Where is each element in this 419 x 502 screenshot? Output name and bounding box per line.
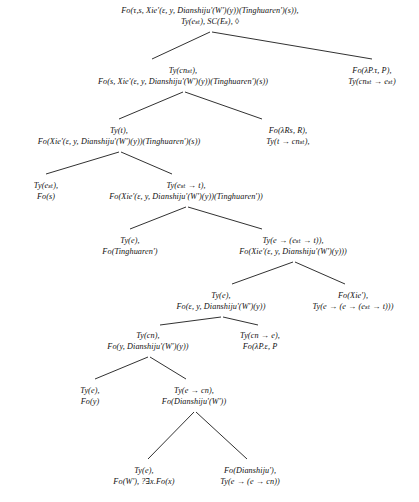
level3-left-node: Ty(eₛₜ),Fo(s) (34, 181, 58, 202)
node-text-line: Ty(eₛₜ), SC(Eₛ), ◊ (121, 17, 299, 28)
node-text-line: Fo(Xie'(ε, y, Dianshiju'(W')(y))(Tinghua… (38, 137, 201, 148)
level2-left-node: Ty(t),Fo(Xie'(ε, y, Dianshiju'(W')(y))(T… (38, 126, 201, 147)
node-text-line: Ty(e → (e → (eₛₜ → t))) (312, 302, 393, 313)
node-text-line: Fo(W'), ?∃x.Fo(x) (113, 477, 174, 488)
edge-l3-to-right (188, 207, 262, 229)
node-text-line: Ty(e), (113, 466, 174, 477)
node-text-line: Fo(Tinghuaren') (102, 247, 157, 258)
node-text-line: Fo(y) (80, 397, 99, 408)
level1-left-node: Ty(cnₛₜ),Fo(s, Xie'(ε, y, Dianshiju'(W')… (98, 66, 268, 87)
level7-right-node: Ty(e → cn),Fo(Dianshiju'(W')) (162, 386, 226, 407)
node-text-line: Ty(e → (eₛₜ → t)), (239, 236, 347, 247)
node-text-line: Ty(e), (80, 386, 99, 397)
node-text-line: Ty(t), (38, 126, 201, 137)
edge-l7-to-right (196, 412, 247, 459)
root-node: Fo(τ,s, Xie'(ε, y, Dianshiju'(W')(y))(Ti… (121, 6, 299, 27)
node-text-line: Ty(cn → e), (240, 331, 280, 342)
level6-left-node: Ty(cn),Fo(y, Dianshiju'(W')(y)) (107, 331, 188, 352)
edge-l5-to-right (223, 317, 258, 325)
node-text-line: Fo(s) (34, 192, 58, 203)
edge-l1-to-left (119, 92, 183, 119)
node-text-line: Fo(λRs, R), (266, 126, 309, 137)
node-text-line: Fo(τ,s, Xie'(ε, y, Dianshiju'(W')(y))(Ti… (121, 6, 299, 17)
level7-left-node: Ty(e),Fo(y) (80, 386, 99, 407)
edge-l5-to-left (160, 317, 221, 325)
node-text-line: Fo(Xie'), (312, 291, 393, 302)
level6-right-node: Ty(cn → e),Fo(λP.ε, P (240, 331, 280, 352)
level4-right-node: Ty(e → (eₛₜ → t)),Fo(Xie'(ε, y, Dianshij… (239, 236, 347, 257)
node-text-line: Ty(e → cn), (162, 386, 226, 397)
node-text-line: Ty(eₛₜ → t), (109, 181, 263, 192)
node-text-line: Ty(cnₛₜ → eₛₜ) (348, 77, 396, 88)
edge-l6-to-right (150, 357, 186, 379)
edge-l2-to-left (46, 152, 119, 174)
level5-left-node: Ty(e),Fo(ε, y, Dianshiju'(W')(y)) (176, 291, 265, 312)
edge-l7-to-left (148, 412, 194, 459)
node-text-line: Fo(Dianshiju'(W')) (162, 397, 226, 408)
node-text-line: Fo(y, Dianshiju'(W')(y)) (107, 342, 188, 353)
level8-right-node: Fo(Dianshiju'),Ty(e → (e → cn)) (220, 466, 280, 487)
node-text-line: Ty(cnₛₜ), (98, 66, 268, 77)
level5-right-node: Fo(Xie'),Ty(e → (e → (eₛₜ → t))) (312, 291, 393, 312)
edge-l4-to-right (295, 262, 345, 284)
node-text-line: Ty(e), (176, 291, 265, 302)
node-text-line: Fo(λP.ε, P (240, 342, 280, 353)
level3-right-node: Ty(eₛₜ → t),Fo(Xie'(ε, y, Dianshiju'(W')… (109, 181, 263, 202)
node-text-line: Ty(t → cnₛₜ), (266, 137, 309, 148)
edge-l2-to-right (121, 152, 172, 174)
edge-root-to-right (212, 32, 372, 59)
node-text-line: Ty(e), (102, 236, 157, 247)
edge-l3-to-left (130, 207, 186, 229)
node-text-line: Fo(Xie'(ε, y, Dianshiju'(W')(y))(Tinghua… (109, 192, 263, 203)
node-text-line: Fo(λP.τ, P), (348, 66, 396, 77)
edge-l1-to-right (185, 92, 262, 119)
node-text-line: Ty(e → (e → cn)) (220, 477, 280, 488)
level2-right-node: Fo(λRs, R),Ty(t → cnₛₜ), (266, 126, 309, 147)
node-text-line: Fo(ε, y, Dianshiju'(W')(y)) (176, 302, 265, 313)
edge-l4-to-left (232, 262, 293, 284)
node-text-line: Ty(eₛₜ), (34, 181, 58, 192)
node-text-line: Ty(cn), (107, 331, 188, 342)
edge-root-to-left (152, 32, 210, 59)
level4-left-node: Ty(e),Fo(Tinghuaren') (102, 236, 157, 257)
edge-l6-to-left (95, 357, 148, 379)
node-text-line: Fo(Xie'(ε, y, Dianshiju'(W')(y))) (239, 247, 347, 258)
semantic-tree-figure: Fo(τ,s, Xie'(ε, y, Dianshiju'(W')(y))(Ti… (0, 0, 419, 502)
node-text-line: Fo(Dianshiju'), (220, 466, 280, 477)
node-text-line: Fo(s, Xie'(ε, y, Dianshiju'(W')(y))(Ting… (98, 77, 268, 88)
level8-left-node: Ty(e),Fo(W'), ?∃x.Fo(x) (113, 466, 174, 487)
level1-right-node: Fo(λP.τ, P),Ty(cnₛₜ → eₛₜ) (348, 66, 396, 87)
